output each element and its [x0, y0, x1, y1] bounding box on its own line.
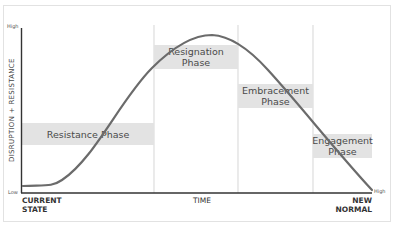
change-curve	[23, 35, 372, 190]
x-axis-start-line1: CURRENT	[22, 196, 62, 205]
x-axis-end-high-label: High	[374, 188, 386, 194]
y-axis-label: DISRUPTION + RESISTANCE	[8, 58, 16, 162]
x-axis-end-line1: NEW	[332, 196, 372, 205]
x-axis-start-label: CURRENT STATE	[22, 196, 62, 214]
y-axis-low-label: Low	[8, 189, 18, 195]
x-axis-end-line2: NORMAL	[332, 205, 372, 214]
curve-layer	[0, 0, 395, 228]
y-axis-high-label: High	[7, 23, 19, 29]
x-axis-time-label: TIME	[193, 196, 211, 205]
x-axis-start-line2: STATE	[22, 205, 62, 214]
x-axis-end-label: NEW NORMAL	[332, 196, 372, 214]
